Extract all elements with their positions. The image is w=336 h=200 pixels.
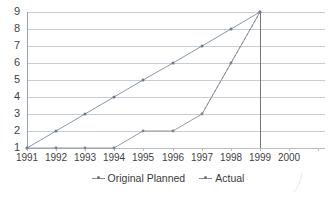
data-point bbox=[84, 113, 87, 116]
x-tick-label: 1993 bbox=[74, 151, 96, 164]
line-marker-icon bbox=[92, 174, 105, 182]
x-tick-label: 1996 bbox=[162, 151, 184, 164]
x-tick-label: 1998 bbox=[220, 151, 242, 164]
data-point bbox=[201, 45, 204, 48]
line-marker-icon bbox=[199, 174, 212, 182]
data-point bbox=[55, 130, 58, 133]
x-tick-label: 1999 bbox=[249, 151, 271, 164]
legend-item-original-planned[interactable]: Original Planned bbox=[92, 172, 186, 184]
data-point bbox=[172, 130, 175, 133]
x-tick-label: 1995 bbox=[132, 151, 154, 164]
chart-legend: Original Planned Actual bbox=[0, 170, 336, 186]
x-tick-label: 1992 bbox=[45, 151, 67, 164]
line-chart: 9 8 7 6 5 4 3 2 1 bbox=[0, 0, 336, 200]
data-point bbox=[259, 11, 262, 14]
legend-label: Actual bbox=[215, 172, 244, 184]
legend-label: Original Planned bbox=[108, 172, 186, 184]
x-tick-label: 2000 bbox=[278, 151, 300, 164]
data-point bbox=[84, 147, 87, 150]
data-point bbox=[113, 96, 116, 99]
data-point bbox=[230, 62, 233, 65]
series-original-planned bbox=[26, 11, 262, 150]
data-point bbox=[142, 130, 145, 133]
data-point bbox=[113, 147, 116, 150]
data-point bbox=[55, 147, 58, 150]
x-axis-labels: 1991 1992 1993 1994 1995 1996 1997 1998 … bbox=[0, 151, 336, 167]
data-point bbox=[201, 113, 204, 116]
x-tick-label: 1991 bbox=[16, 151, 38, 164]
data-point bbox=[26, 147, 29, 150]
legend-item-actual[interactable]: Actual bbox=[199, 172, 244, 184]
data-point bbox=[230, 28, 233, 31]
x-tick-label: 1994 bbox=[103, 151, 125, 164]
data-point bbox=[142, 79, 145, 82]
data-point bbox=[172, 62, 175, 65]
x-tick-label: 1997 bbox=[191, 151, 213, 164]
